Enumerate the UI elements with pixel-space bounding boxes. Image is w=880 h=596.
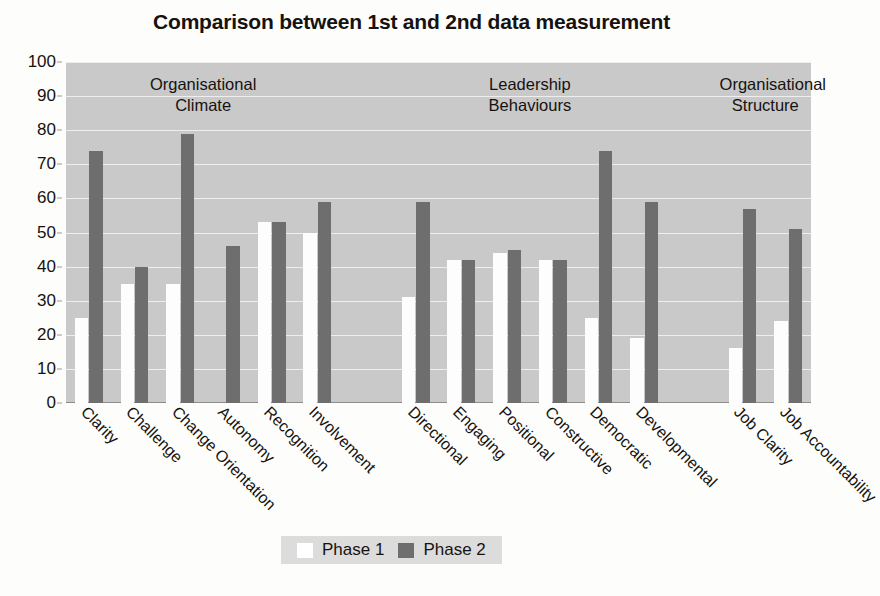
y-axis-tick-mark: [57, 232, 62, 233]
bar: [789, 229, 802, 403]
y-axis-tick-label: 80: [37, 120, 56, 140]
bar: [318, 202, 331, 403]
legend-label-phase-2: Phase 2: [423, 540, 485, 560]
bar: [599, 151, 612, 403]
x-axis-category-labels: ClarityChallengeChange OrientationAutono…: [0, 403, 823, 533]
phase1-swatch-icon: [297, 543, 313, 558]
gridline: [66, 267, 811, 268]
bar: [272, 222, 285, 403]
bar: [89, 151, 102, 403]
y-axis-tick-mark: [57, 198, 62, 199]
bar: [645, 202, 658, 403]
y-axis-tick-label: 90: [37, 86, 56, 106]
bar: [553, 260, 566, 403]
bar: [585, 318, 598, 403]
bar: [75, 318, 88, 403]
bar: [493, 253, 506, 403]
y-axis-tick-mark: [57, 266, 62, 267]
bar: [135, 267, 148, 403]
x-axis-category-label: Clarity: [77, 403, 122, 448]
bar: [226, 246, 239, 403]
group-header: Organisational Climate: [66, 74, 340, 116]
y-axis-tick-mark: [57, 300, 62, 301]
bar: [462, 260, 475, 403]
y-axis-tick-mark: [57, 334, 62, 335]
bar: [416, 202, 429, 403]
bar: [258, 222, 271, 403]
group-header: Leadership Behaviours: [393, 74, 667, 116]
bar: [166, 284, 179, 403]
x-axis-category-label: Developmental: [632, 403, 720, 491]
gridline: [66, 233, 811, 234]
bar: [743, 209, 756, 403]
legend-item-phase-2: Phase 2: [398, 540, 485, 560]
y-axis-tick-mark: [57, 62, 62, 63]
chart-legend: Phase 1 Phase 2: [281, 536, 502, 564]
bar: [630, 338, 643, 403]
y-axis-tick-label: 30: [37, 291, 56, 311]
y-axis-tick-mark: [57, 96, 62, 97]
bar: [121, 284, 134, 403]
bar: [181, 134, 194, 403]
gridline: [66, 130, 811, 131]
bar: [774, 321, 787, 403]
gridline: [66, 164, 811, 165]
y-axis-tick-label: 100: [28, 52, 56, 72]
bar: [447, 260, 460, 403]
bar: [303, 233, 316, 404]
bar: [402, 297, 415, 403]
y-axis-tick-label: 20: [37, 325, 56, 345]
legend-item-phase-1: Phase 1: [297, 540, 384, 560]
y-axis-tick-label: 60: [37, 188, 56, 208]
plot-area: Organisational ClimateLeadership Behavio…: [66, 62, 811, 403]
gridline: [66, 198, 811, 199]
bar: [508, 250, 521, 403]
gridline: [66, 62, 811, 63]
y-axis-tick-label: 70: [37, 154, 56, 174]
y-axis-tick-mark: [57, 368, 62, 369]
y-axis: 0102030405060708090100: [0, 62, 62, 403]
y-axis-tick-label: 50: [37, 223, 56, 243]
phase2-swatch-icon: [398, 543, 414, 558]
y-axis-tick-label: 10: [37, 359, 56, 379]
group-header: Organisational Structure: [720, 74, 811, 116]
legend-label-phase-1: Phase 1: [322, 540, 384, 560]
y-axis-tick-mark: [57, 164, 62, 165]
bar: [729, 348, 742, 403]
y-axis-tick-label: 40: [37, 257, 56, 277]
y-axis-tick-mark: [57, 130, 62, 131]
chart-title: Comparison between 1st and 2nd data meas…: [0, 10, 823, 34]
bar: [539, 260, 552, 403]
